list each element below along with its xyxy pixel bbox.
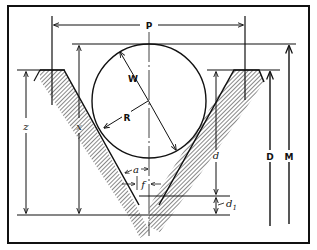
label-d1: d1 [226, 198, 237, 212]
label-D: D [266, 152, 273, 162]
measurement-over-wire-dimension: M [285, 46, 294, 224]
major-diameter-dimension: D [266, 72, 273, 226]
wire-radius-dimension: R [104, 101, 148, 128]
thread-wire-diagram: P W R z x a f [0, 0, 317, 250]
label-z: z [22, 121, 29, 132]
d1-dimension: d1 [216, 198, 237, 213]
label-d: d [213, 150, 219, 161]
a-dimension: a [125, 164, 148, 175]
x-dimension: x [76, 46, 82, 213]
label-a: a [133, 164, 139, 175]
label-r: R [124, 113, 131, 123]
label-x: x [76, 121, 82, 132]
label-f: f [140, 179, 147, 190]
z-dimension: z [22, 72, 29, 213]
label-M: M [285, 152, 294, 162]
label-w: W [128, 74, 138, 84]
label-p: P [146, 21, 153, 31]
f-dimension: f [122, 176, 161, 190]
